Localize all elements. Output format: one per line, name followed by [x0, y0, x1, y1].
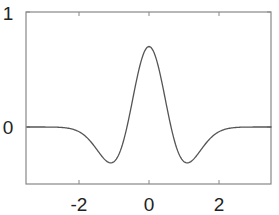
y-tick-label-1: 1 [3, 3, 14, 24]
data-series-line [27, 47, 272, 163]
plot-frame [26, 12, 271, 184]
x-tick-label-0: 0 [144, 194, 155, 215]
line-chart: 1 0 -2 0 2 [0, 0, 279, 215]
tick-marks [26, 12, 271, 184]
x-tick-label-neg2: -2 [71, 194, 88, 215]
x-tick-label-2: 2 [214, 194, 225, 215]
y-tick-label-0: 0 [3, 117, 14, 138]
